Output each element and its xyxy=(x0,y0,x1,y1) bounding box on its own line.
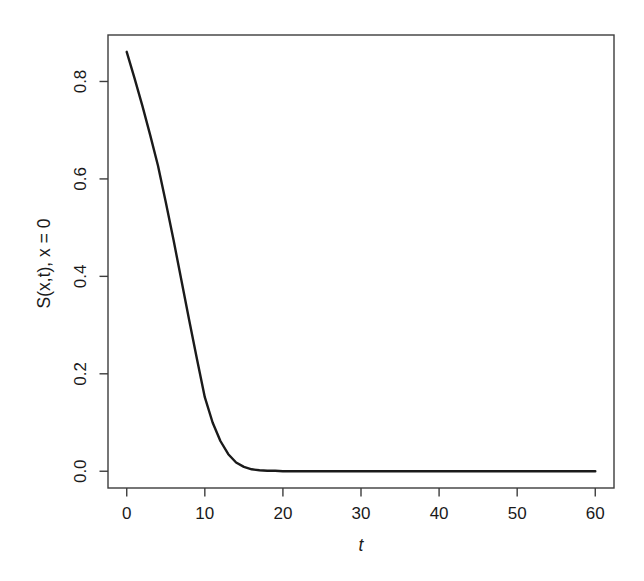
y-axis-title: S(x,t), x = 0 xyxy=(34,218,54,308)
x-tick-label: 40 xyxy=(430,504,449,523)
x-tick-label: 0 xyxy=(122,504,131,523)
y-tick-label: 0.6 xyxy=(71,167,90,191)
y-tick-label: 0.2 xyxy=(71,362,90,386)
figure: 01020304050600.00.20.40.60.8S(x,t), x = … xyxy=(0,0,644,581)
x-tick-label: 60 xyxy=(586,504,605,523)
x-tick-label: 50 xyxy=(508,504,527,523)
y-tick-label: 0.8 xyxy=(71,70,90,94)
plot-box xyxy=(108,35,614,488)
x-tick-label: 10 xyxy=(195,504,214,523)
y-tick-label: 0.0 xyxy=(71,459,90,483)
curve-path xyxy=(127,52,596,471)
x-tick-label: 20 xyxy=(273,504,292,523)
y-tick-label: 0.4 xyxy=(71,265,90,289)
x-axis-title: t xyxy=(359,535,365,555)
plot-canvas: 01020304050600.00.20.40.60.8S(x,t), x = … xyxy=(0,0,644,581)
x-tick-label: 30 xyxy=(352,504,371,523)
